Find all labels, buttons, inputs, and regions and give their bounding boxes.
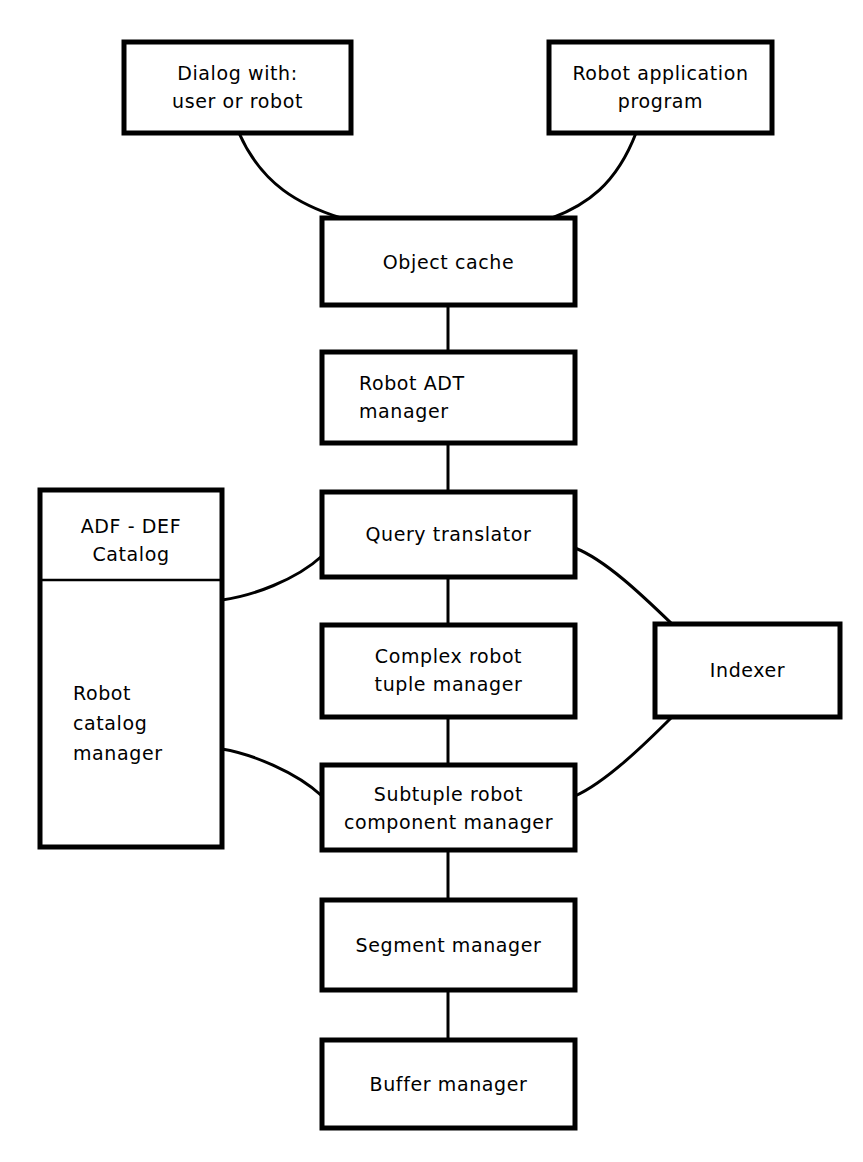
query-translator-box[interactable]: Query translator [322,492,575,577]
complex-robot-tuple-manager-label-line1: Complex robot [375,645,522,667]
complex-robot-tuple-manager-box-rect [322,625,575,717]
robot-adt-manager-label-line2: manager [359,400,449,422]
architecture-diagram-root: Dialog with: user or robot Robot applica… [0,0,863,1162]
edge-dialog-to-object-cache [239,133,341,218]
robot-catalog-manager-label-line1: Robot [73,682,131,704]
buffer-manager-box[interactable]: Buffer manager [322,1040,575,1128]
indexer-label: Indexer [710,659,785,681]
indexer-box[interactable]: Indexer [655,624,840,717]
complex-robot-tuple-manager-label-line2: tuple manager [375,673,523,695]
robot-application-program-box[interactable]: Robot application program [549,42,772,133]
subtuple-robot-component-manager-label-line1: Subtuple robot [374,783,523,805]
subtuple-robot-component-manager-box[interactable]: Subtuple robot component manager [322,765,575,850]
edge-indexer-to-subtuple [575,717,672,796]
dialog-box-rect [124,42,351,133]
edge-robot-application-to-object-cache [552,133,636,218]
dialog-box-label-line1: Dialog with: [177,62,297,84]
dialog-box-label-line2: user or robot [172,90,303,112]
robot-application-program-label-line1: Robot application [572,62,748,84]
robot-adt-manager-box[interactable]: Robot ADT manager [322,352,575,443]
query-translator-label: Query translator [365,523,531,545]
segment-manager-label: Segment manager [356,934,542,956]
subtuple-robot-component-manager-label-line2: component manager [344,811,553,833]
adf-def-catalog-label-line1: ADF - DEF [81,515,181,537]
architecture-diagram: Dialog with: user or robot Robot applica… [0,0,863,1162]
dialog-box[interactable]: Dialog with: user or robot [124,42,351,133]
object-cache-box[interactable]: Object cache [322,218,575,305]
robot-application-program-label-line2: program [618,90,703,112]
robot-adt-manager-box-rect [322,352,575,443]
edge-catalog-to-query-translator [222,556,322,600]
robot-catalog-manager-label-line3: manager [73,742,163,764]
subtuple-robot-component-manager-box-rect [322,765,575,850]
edge-query-translator-to-indexer [575,548,672,624]
buffer-manager-label: Buffer manager [370,1073,528,1095]
adf-def-catalog-label-line2: Catalog [92,543,169,565]
edge-catalog-to-subtuple [222,749,322,796]
robot-catalog-compound-box[interactable]: ADF - DEF Catalog Robot catalog manager [40,490,222,847]
segment-manager-box[interactable]: Segment manager [322,900,575,990]
object-cache-label: Object cache [383,251,514,273]
robot-application-program-box-rect [549,42,772,133]
robot-adt-manager-label-line1: Robot ADT [359,372,465,394]
robot-catalog-manager-label-line2: catalog [73,712,147,734]
complex-robot-tuple-manager-box[interactable]: Complex robot tuple manager [322,625,575,717]
